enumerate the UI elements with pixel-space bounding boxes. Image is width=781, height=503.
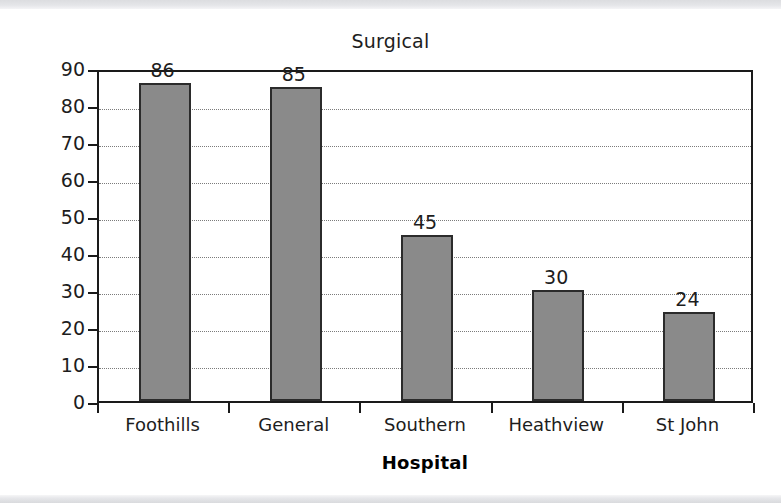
y-axis-tick-label: 80	[35, 95, 85, 117]
x-axis-tick	[753, 403, 755, 413]
y-axis-tick-label: 50	[35, 206, 85, 228]
bar[interactable]	[532, 290, 584, 401]
bar[interactable]	[270, 87, 322, 402]
x-axis-tick	[491, 403, 493, 413]
x-axis-title: Hospital	[97, 452, 753, 473]
x-axis-tick	[97, 403, 99, 413]
bar-value-label: 45	[390, 211, 460, 233]
x-axis-tick	[228, 403, 230, 413]
bar-value-label: 24	[652, 288, 722, 310]
x-axis-category-label: Foothills	[93, 414, 233, 435]
y-axis-tick	[88, 70, 97, 72]
gridline	[99, 109, 751, 110]
bar[interactable]	[139, 83, 191, 401]
y-axis-tick-label: 20	[35, 317, 85, 339]
y-axis-tick	[88, 255, 97, 257]
y-axis-tick-label: 40	[35, 243, 85, 265]
y-axis-tick	[88, 181, 97, 183]
chart-title: Surgical	[0, 30, 781, 52]
y-axis-tick	[88, 107, 97, 109]
y-axis-tick-label: 70	[35, 132, 85, 154]
x-axis-category-label: Heathview	[486, 414, 626, 435]
scan-artifact-band-top	[0, 0, 781, 9]
x-axis-category-label: St John	[617, 414, 757, 435]
y-axis-tick-label: 60	[35, 169, 85, 191]
y-axis-tick-label: 30	[35, 280, 85, 302]
y-axis-tick	[88, 329, 97, 331]
bar-value-label: 85	[259, 63, 329, 85]
y-axis-tick	[88, 218, 97, 220]
bar-value-label: 30	[521, 266, 591, 288]
bar-chart-figure: Surgical Number of beds Hospital 0102030…	[0, 0, 781, 503]
bar[interactable]	[663, 312, 715, 401]
gridline	[99, 183, 751, 184]
y-axis-tick-label: 10	[35, 354, 85, 376]
bar[interactable]	[401, 235, 453, 402]
x-axis-category-label: Southern	[355, 414, 495, 435]
y-axis-tick-label: 0	[35, 391, 85, 413]
x-axis-tick	[359, 403, 361, 413]
x-axis-tick	[622, 403, 624, 413]
y-axis-tick	[88, 403, 97, 405]
plot-area	[97, 70, 753, 403]
y-axis-tick	[88, 144, 97, 146]
y-axis-tick-label: 90	[35, 58, 85, 80]
gridline	[99, 146, 751, 147]
bar-value-label: 86	[128, 59, 198, 81]
x-axis-category-label: General	[224, 414, 364, 435]
scan-artifact-band-bottom	[0, 495, 781, 503]
y-axis-tick	[88, 292, 97, 294]
y-axis-tick	[88, 366, 97, 368]
